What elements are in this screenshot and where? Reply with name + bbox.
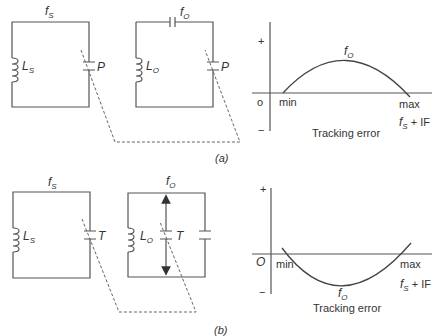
svg-text:+: + xyxy=(258,35,264,47)
graph-a: + − o min max fO fS + IF Tracking error xyxy=(252,22,432,139)
svg-text:max: max xyxy=(399,98,420,110)
capacitor-label: P xyxy=(97,60,105,74)
circuit-b-signal: fS LS T xyxy=(13,175,107,278)
freq-label: fS xyxy=(45,4,54,20)
inductor-label: LS xyxy=(22,59,35,75)
svg-text:−: − xyxy=(259,286,265,298)
circuit-b-oscillator: fO LO T xyxy=(128,174,211,277)
svg-text:min: min xyxy=(279,96,297,108)
svg-text:O: O xyxy=(256,255,265,269)
svg-text:LS: LS xyxy=(23,229,36,245)
capacitor-p-a1 xyxy=(83,62,95,70)
svg-text:max: max xyxy=(400,258,421,270)
graph-b: + − O min max fO fS + IF Tracking error xyxy=(252,183,432,314)
svg-text:Tracking error: Tracking error xyxy=(313,302,381,314)
svg-text:min: min xyxy=(276,258,294,270)
svg-text:fS + IF: fS + IF xyxy=(400,277,431,293)
circuit-a-oscillator: fO LO P xyxy=(136,5,229,107)
caption-a: (a) xyxy=(215,152,229,164)
svg-text:Tracking error: Tracking error xyxy=(312,127,380,139)
inductor-ls-a xyxy=(12,58,18,82)
circuit-a-signal: fS LS P xyxy=(12,4,105,107)
caption-b: (b) xyxy=(214,324,228,336)
svg-text:T: T xyxy=(98,229,107,243)
svg-text:fO: fO xyxy=(344,44,354,60)
svg-text:−: − xyxy=(258,124,264,136)
svg-text:fS + IF: fS + IF xyxy=(399,115,430,131)
svg-text:fO: fO xyxy=(338,286,348,302)
svg-text:o: o xyxy=(257,96,263,108)
svg-text:fS: fS xyxy=(48,175,57,191)
capacitor-label: P xyxy=(221,60,229,74)
freq-label: fO xyxy=(180,5,190,21)
inductor-label: LO xyxy=(146,59,159,75)
svg-text:fO: fO xyxy=(166,174,176,190)
svg-text:+: + xyxy=(260,183,266,195)
tracking-diagram: fS LS P fO LO P + − o min max fO fS + IF… xyxy=(0,0,443,336)
svg-text:T: T xyxy=(176,229,185,243)
svg-text:LO: LO xyxy=(140,229,153,245)
